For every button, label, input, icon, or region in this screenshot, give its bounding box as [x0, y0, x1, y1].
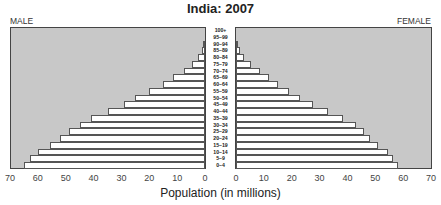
female-bar [236, 135, 370, 142]
female-bar [236, 81, 278, 88]
female-axis-tick: 30 [315, 173, 325, 183]
female-bar [236, 88, 289, 95]
male-bar [173, 74, 205, 81]
male-bar [202, 47, 205, 54]
female-bar [236, 108, 328, 115]
male-bar [135, 95, 205, 102]
male-axis-tick: 70 [5, 173, 15, 183]
male-bar [24, 162, 205, 169]
male-bar [192, 61, 205, 68]
age-group-label: 95–99 [206, 34, 235, 41]
age-group-label: 20–24 [206, 135, 235, 142]
male-bar [91, 115, 205, 122]
age-group-label: 55–59 [206, 88, 235, 95]
age-group-label: 40–44 [206, 108, 235, 115]
age-group-label: 70–74 [206, 68, 235, 75]
female-bar [236, 155, 393, 162]
age-group-label: 45–49 [206, 101, 235, 108]
female-bar [236, 128, 364, 135]
age-group-label: 100+ [206, 27, 235, 34]
age-group-label: 35–39 [206, 115, 235, 122]
female-axis-tick: 50 [370, 173, 380, 183]
age-group-label: 85–89 [206, 47, 235, 54]
female-axis-tick: 20 [287, 173, 297, 183]
age-group-label: 75–79 [206, 61, 235, 68]
male-label: MALE [10, 16, 33, 26]
female-bar [236, 95, 300, 102]
age-group-label: 25–29 [206, 128, 235, 135]
male-bar [198, 54, 205, 61]
male-axis-tick: 50 [61, 173, 71, 183]
female-bar [236, 74, 269, 81]
female-bar [236, 115, 343, 122]
female-plot-area [235, 27, 432, 169]
age-group-label: 0–4 [206, 162, 235, 169]
female-bar [236, 54, 244, 61]
age-group-label: 80–84 [206, 54, 235, 61]
age-group-labels: 0–45–910–1415–1920–2425–2930–3435–3940–4… [206, 27, 235, 169]
female-bar [236, 41, 238, 48]
age-group-label: 10–14 [206, 149, 235, 156]
male-axis-tick: 0 [203, 173, 208, 183]
female-bar [236, 101, 313, 108]
male-axis-tick: 20 [144, 173, 154, 183]
male-axis-tick: 10 [172, 173, 182, 183]
x-axis-label: Population (in millions) [0, 186, 441, 200]
male-bar [163, 81, 205, 88]
male-bar [50, 142, 205, 149]
male-bar [203, 41, 205, 48]
age-group-label: 90–94 [206, 41, 235, 48]
female-bar [236, 68, 260, 75]
male-bar [69, 128, 206, 135]
age-group-label: 15–19 [206, 142, 235, 149]
female-label: FEMALE [397, 16, 431, 26]
male-bar [30, 155, 206, 162]
female-bar [236, 122, 356, 129]
male-axis-tick: 30 [116, 173, 126, 183]
female-bar [236, 142, 378, 149]
female-axis-tick: 0 [233, 173, 238, 183]
age-group-label: 5–9 [206, 155, 235, 162]
male-bar [149, 88, 205, 95]
male-plot-area [10, 27, 206, 169]
male-axis-tick: 60 [33, 173, 43, 183]
male-bar [38, 149, 205, 156]
female-axis-tick: 10 [259, 173, 269, 183]
female-bar [236, 61, 251, 68]
female-bar [236, 162, 398, 169]
chart-title: India: 2007 [0, 1, 441, 16]
age-group-label: 65–69 [206, 74, 235, 81]
female-bar [236, 149, 388, 156]
female-axis-tick: 60 [398, 173, 408, 183]
female-axis-tick: 40 [342, 173, 352, 183]
male-bar [124, 101, 205, 108]
female-bar [236, 47, 240, 54]
age-group-label: 30–34 [206, 122, 235, 129]
male-bar [60, 135, 205, 142]
age-group-label: 60–64 [206, 81, 235, 88]
male-bar [184, 68, 205, 75]
female-axis-tick: 70 [426, 173, 436, 183]
male-axis-tick: 40 [89, 173, 99, 183]
male-bar [80, 122, 205, 129]
male-bar [108, 108, 206, 115]
age-group-label: 50–54 [206, 95, 235, 102]
